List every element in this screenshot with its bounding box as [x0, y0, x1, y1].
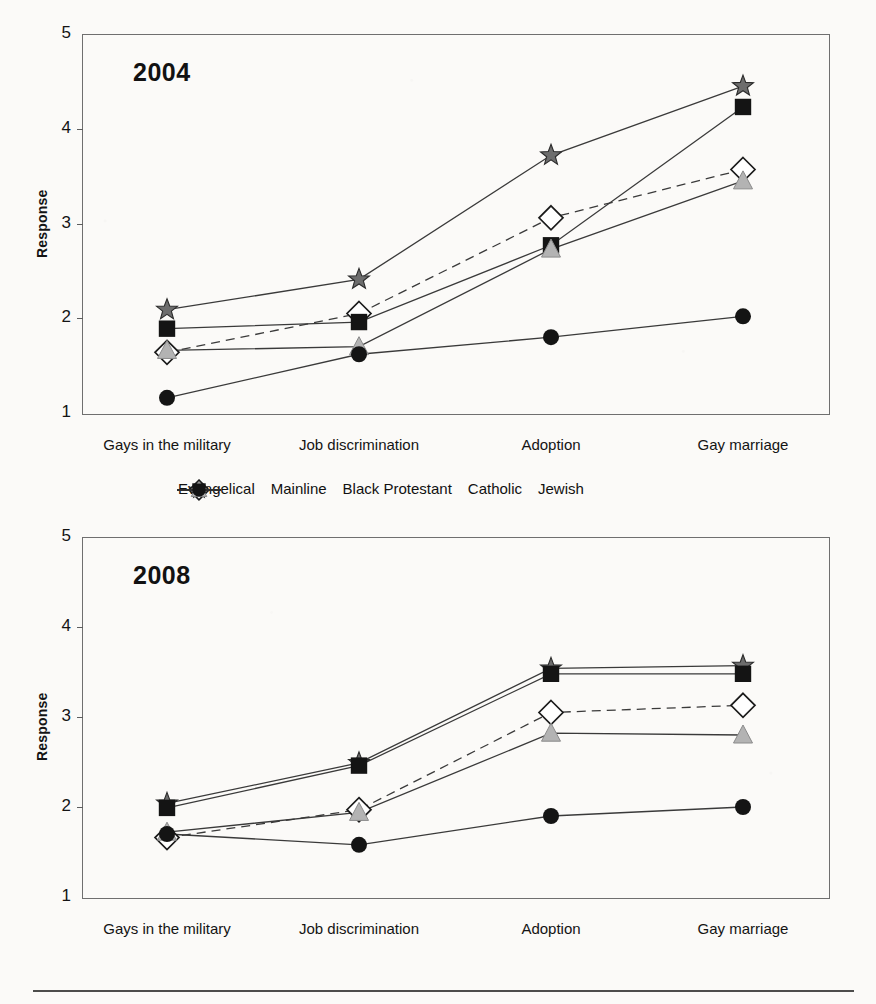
- square-marker: [735, 666, 751, 682]
- y-tick-label: 1: [49, 886, 71, 906]
- legend-entry-black-protestant: Black Protestant: [341, 480, 452, 497]
- y-tick-mark: [77, 318, 83, 319]
- x-tick-label: Gays in the military: [103, 920, 231, 937]
- legend-entry-catholic: Catholic: [466, 480, 522, 497]
- series-line-black-protestant: [167, 674, 743, 808]
- square-marker: [543, 666, 559, 682]
- scanned-page: Response 2004 12345 Gays in the military…: [0, 0, 876, 1004]
- circle-marker: [351, 346, 367, 362]
- x-tick-label: Gay marriage: [698, 436, 789, 453]
- footer-divider-rule: [33, 990, 854, 992]
- x-tick-label: Gay marriage: [698, 920, 789, 937]
- chart-legend: EvangelicalMainlineBlack ProtestantCatho…: [176, 480, 598, 497]
- y-tick-label: 5: [49, 23, 71, 43]
- y-tick-label: 2: [49, 796, 71, 816]
- legend-label: Jewish: [536, 480, 584, 497]
- circle-marker: [159, 826, 175, 842]
- circle-marker: [543, 808, 559, 824]
- x-tick-label: Job discrimination: [299, 436, 419, 453]
- triangle-marker: [734, 725, 753, 743]
- legend-label: Mainline: [269, 480, 327, 497]
- circle-marker: [192, 483, 205, 496]
- star-marker: [541, 144, 562, 164]
- x-tick-label: Gays in the military: [103, 436, 231, 453]
- x-tick-label: Adoption: [521, 436, 580, 453]
- chart-canvas-2004: [0, 0, 876, 470]
- chart-panel-2008: Response 2008 12345 Gays in the military…: [0, 503, 876, 973]
- square-marker: [351, 314, 367, 330]
- series-line-mainline: [167, 169, 743, 352]
- y-tick-mark: [77, 224, 83, 225]
- series-line-jewish: [167, 316, 743, 397]
- chart-canvas-2008: [0, 503, 876, 973]
- square-marker: [159, 800, 175, 816]
- y-tick-mark: [77, 627, 83, 628]
- circle-marker: [735, 799, 751, 815]
- square-marker: [351, 757, 367, 773]
- diamond-marker: [539, 206, 563, 230]
- y-tick-mark: [77, 129, 83, 130]
- legend-label: Catholic: [466, 480, 522, 497]
- diamond-marker: [731, 693, 755, 717]
- circle-marker: [351, 837, 367, 853]
- circle-marker: [159, 390, 175, 406]
- legend-label: Black Protestant: [341, 480, 452, 497]
- chart-panel-2004: Response 2004 12345 Gays in the military…: [0, 0, 876, 470]
- x-tick-label: Adoption: [521, 920, 580, 937]
- square-marker: [735, 99, 751, 115]
- circle-marker: [735, 308, 751, 324]
- legend-entry-mainline: Mainline: [269, 480, 327, 497]
- diamond-marker: [539, 701, 563, 725]
- x-tick-label: Job discrimination: [299, 920, 419, 937]
- series-line-evangelical: [167, 86, 743, 310]
- circle-marker: [543, 329, 559, 345]
- y-tick-mark: [77, 717, 83, 718]
- y-tick-label: 4: [49, 616, 71, 636]
- legend-entry-jewish: Jewish: [536, 480, 584, 497]
- square-marker: [159, 320, 175, 336]
- legend-swatch: [176, 480, 222, 500]
- y-tick-label: 3: [49, 706, 71, 726]
- y-tick-label: 1: [49, 402, 71, 422]
- series-line-jewish: [167, 807, 743, 845]
- y-tick-label: 4: [49, 118, 71, 138]
- star-marker: [349, 268, 370, 288]
- y-tick-mark: [77, 807, 83, 808]
- series-line-mainline: [167, 705, 743, 837]
- star-marker: [733, 75, 754, 95]
- y-tick-label: 3: [49, 213, 71, 233]
- y-tick-label: 2: [49, 307, 71, 327]
- triangle-marker: [542, 723, 561, 741]
- y-tick-label: 5: [49, 526, 71, 546]
- series-line-catholic: [167, 733, 743, 832]
- star-marker: [157, 299, 178, 319]
